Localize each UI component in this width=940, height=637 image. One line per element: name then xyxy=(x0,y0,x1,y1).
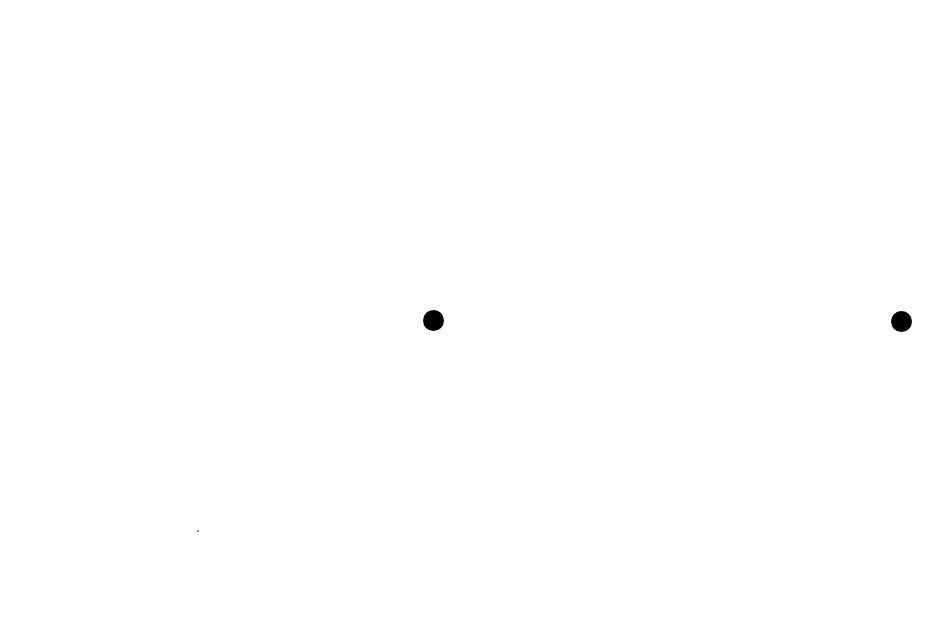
gray-speck xyxy=(197,530,199,532)
black-dot-left xyxy=(423,310,444,331)
black-dot-right xyxy=(891,311,912,332)
blank-page-canvas xyxy=(0,0,940,637)
